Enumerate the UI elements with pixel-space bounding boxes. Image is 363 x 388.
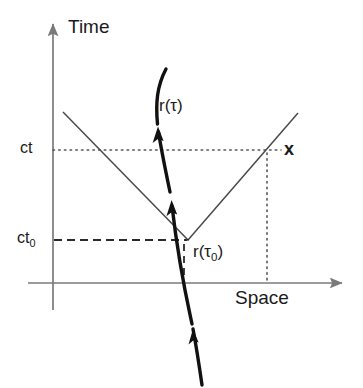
ct0-tick-label: ct0 xyxy=(17,230,36,246)
spacetime-diagram-figure: Time Space ct ct0 r(τ) r(τ0) x xyxy=(0,0,363,388)
light-cone-right-arm xyxy=(188,113,298,240)
event-label-base: r(τ xyxy=(193,242,211,261)
ct-tick-label: ct xyxy=(20,140,32,156)
event-label: r(τ0) xyxy=(193,243,223,260)
event-label-close: ) xyxy=(217,242,223,261)
ct0-tick-label-subscript: 0 xyxy=(29,237,35,249)
axis-group xyxy=(28,24,342,310)
worldline-segment-through-event xyxy=(172,206,192,324)
diagram-canvas xyxy=(0,0,363,388)
ct0-tick-label-base: ct xyxy=(17,229,29,246)
worldline-segment-upper-mid xyxy=(159,132,171,192)
light-cone-left-arm xyxy=(63,112,188,240)
worldline-label: r(τ) xyxy=(159,97,183,114)
worldline-arrowhead-lower xyxy=(189,329,199,345)
event-point-marker xyxy=(187,239,189,241)
space-axis-label: Space xyxy=(235,288,289,307)
light-cone-group xyxy=(63,112,298,240)
time-axis-label: Time xyxy=(68,17,110,36)
x-point-label: x xyxy=(284,140,294,158)
worldline-arrowhead-upper xyxy=(153,127,164,144)
